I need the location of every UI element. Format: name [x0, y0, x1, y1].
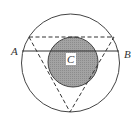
label-c: C — [67, 53, 75, 65]
label-b: B — [124, 48, 131, 60]
geometry-diagram: A B C — [0, 0, 139, 126]
label-a: A — [10, 45, 18, 57]
